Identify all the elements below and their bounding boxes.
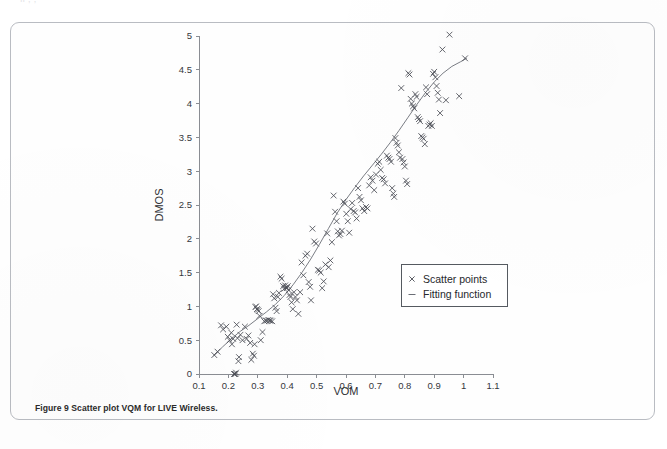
scatter-point xyxy=(390,186,395,191)
scatter-point xyxy=(435,90,440,95)
scatter-point xyxy=(234,322,239,327)
x-tick-label: 0.8 xyxy=(398,380,411,391)
x-tick-label: 0.2 xyxy=(222,380,235,391)
scatter-point xyxy=(437,110,442,115)
scatter-point xyxy=(326,265,331,270)
scatter-point xyxy=(436,97,441,102)
x-axis-title: VQM xyxy=(333,385,358,395)
y-tick-label: 0.5 xyxy=(179,335,192,346)
scatter-point xyxy=(240,338,245,343)
scatter-point xyxy=(236,355,241,360)
scatter-point xyxy=(372,188,377,193)
chart-svg: 0.10.20.30.40.50.60.70.80.911.1 00.511.5… xyxy=(11,23,656,395)
scatter-point xyxy=(421,136,426,141)
scatter-point xyxy=(422,142,427,147)
y-tick-label: 4 xyxy=(187,98,192,109)
y-tick-label: 2.5 xyxy=(179,199,192,210)
scatter-point xyxy=(345,219,350,224)
scatter-point xyxy=(447,32,452,37)
x-tick-label: 0.7 xyxy=(369,380,382,391)
y-tick-label: 3 xyxy=(187,166,192,177)
scatter-point xyxy=(260,329,265,334)
scatter-point xyxy=(392,194,397,199)
scatter-point xyxy=(353,210,358,215)
x-tick-label: 0.4 xyxy=(281,380,294,391)
x-tick-label: 1 xyxy=(461,380,466,391)
scatter-point xyxy=(407,72,412,77)
scatter-point xyxy=(350,200,355,205)
x-tick-label: 0.5 xyxy=(310,380,323,391)
scatter-point xyxy=(333,209,338,214)
scatter-point xyxy=(402,164,407,169)
scatter-point xyxy=(229,330,234,335)
scatter-point xyxy=(348,206,353,211)
scatter-point xyxy=(367,183,372,188)
scatter-point xyxy=(258,338,263,343)
scatter-point xyxy=(321,279,326,284)
scatter-point xyxy=(310,226,315,231)
scatter-point xyxy=(355,186,360,191)
scatter-point xyxy=(443,98,448,103)
scatter-point xyxy=(289,300,294,305)
scatter-point xyxy=(365,206,370,211)
scatter-point xyxy=(433,75,438,80)
scatter-point xyxy=(334,219,339,224)
scatter-point xyxy=(276,290,281,295)
scatter-point xyxy=(457,94,462,99)
figure-caption: Figure 9 Scatter plot VQM for LIVE Wirel… xyxy=(35,403,218,413)
y-tick-label: 5 xyxy=(187,30,192,41)
scatter-point xyxy=(215,349,220,354)
scatter-point xyxy=(298,290,303,295)
y-tick-label: 0 xyxy=(187,368,192,379)
y-axis-tick-labels: 00.511.522.533.544.55 xyxy=(179,30,192,379)
legend-label-scatter-points: Scatter points xyxy=(423,273,487,285)
y-axis-ticks xyxy=(196,36,200,374)
scatter-point xyxy=(423,85,428,90)
scatter-point xyxy=(432,69,437,74)
scatter-point xyxy=(383,181,388,186)
scatter-point xyxy=(425,92,430,97)
scatter-point xyxy=(290,307,295,312)
scatter-point xyxy=(328,258,333,263)
x-tick-label: 0.9 xyxy=(428,380,441,391)
scatter-point xyxy=(279,276,284,281)
scatter-point xyxy=(308,298,313,303)
scatter-point xyxy=(301,273,306,278)
legend-label-fitting-function: Fitting function xyxy=(423,288,491,300)
scatter-point xyxy=(305,251,310,256)
scatter-point xyxy=(313,241,318,246)
y-tick-label: 2 xyxy=(187,233,192,244)
scatter-point xyxy=(296,311,301,316)
scatter-point xyxy=(252,342,257,347)
scatter-point xyxy=(288,294,293,299)
scatter-point xyxy=(378,167,383,172)
scatter-point xyxy=(248,340,253,345)
x-axis-ticks xyxy=(199,374,493,378)
legend: Scatter points Fitting function xyxy=(401,264,507,306)
scatter-point xyxy=(396,150,401,155)
scatter-point xyxy=(440,47,445,52)
scatter-point xyxy=(381,177,386,182)
scatter-point xyxy=(306,279,311,284)
y-tick-label: 4.5 xyxy=(179,64,192,75)
scatter-point xyxy=(320,286,325,291)
scatter-point xyxy=(329,240,334,245)
scatter-point xyxy=(354,216,359,221)
y-tick-label: 1.5 xyxy=(179,267,192,278)
scatter-point xyxy=(308,284,313,289)
fitting-function-line xyxy=(214,58,467,355)
scatter-point xyxy=(347,230,352,235)
figure-caption-text: Scatter plot VQM for LIVE Wireless. xyxy=(71,403,217,413)
y-tick-label: 3.5 xyxy=(179,132,192,143)
clipped-page-text: ll , , xyxy=(0,0,667,10)
scatter-point xyxy=(318,270,323,275)
y-axis-title: DMOS xyxy=(153,189,165,222)
figure-container: 0.10.20.30.40.50.60.70.80.911.1 00.511.5… xyxy=(10,22,655,420)
scatter-point xyxy=(299,260,304,265)
scatter-point xyxy=(434,83,439,88)
scatter-point xyxy=(377,159,382,164)
scatter-point xyxy=(224,324,229,329)
x-tick-label: 0.3 xyxy=(251,380,264,391)
y-tick-label: 1 xyxy=(187,301,192,312)
scatter-point xyxy=(238,332,243,337)
